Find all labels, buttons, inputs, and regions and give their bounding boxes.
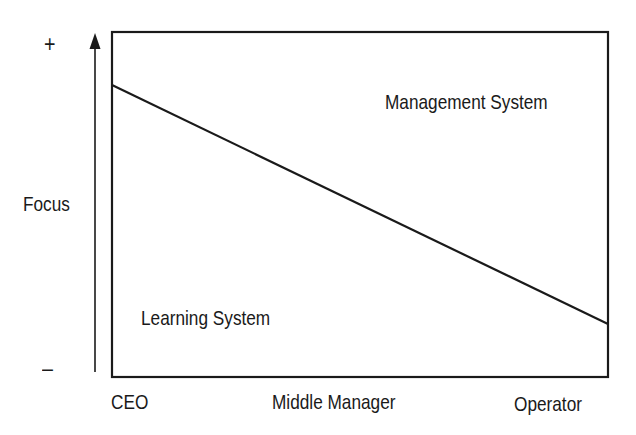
y-axis-arrowhead-icon xyxy=(90,33,101,49)
y-axis-minus-marker: – xyxy=(42,356,53,380)
diagram-canvas xyxy=(0,0,636,435)
region-label-learning-system: Learning System xyxy=(141,307,270,328)
y-axis-label: Focus xyxy=(23,193,70,214)
x-axis-label-operator: Operator xyxy=(514,393,582,414)
region-label-management-system: Management System xyxy=(385,91,548,112)
y-axis-plus-marker: + xyxy=(44,32,55,56)
x-axis-label-middle-manager: Middle Manager xyxy=(272,391,395,412)
x-axis-label-ceo: CEO xyxy=(111,391,148,412)
divider-line xyxy=(112,85,608,324)
